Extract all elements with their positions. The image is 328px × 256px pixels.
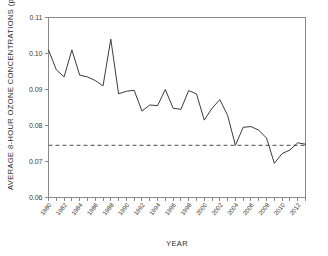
x-axis-title: YEAR [166,239,188,248]
y-tick-label: 0.08 [29,122,43,129]
y-tick-label: 0.10 [29,50,43,57]
y-axis-title: AVERAGE 8-HOUR OZONE CONCENTRATIONS (ppm… [6,0,15,190]
figure-background [0,0,328,256]
ozone-trend-line-chart: 0.110.100.090.080.070.06 198019821984198… [0,0,328,256]
chart-figure: 0.110.100.090.080.070.06 198019821984198… [0,0,328,256]
y-tick-label: 0.07 [29,158,43,165]
y-tick-label: 0.09 [29,86,43,93]
y-tick-label: 0.11 [29,14,42,21]
y-tick-label: 0.06 [29,194,43,201]
